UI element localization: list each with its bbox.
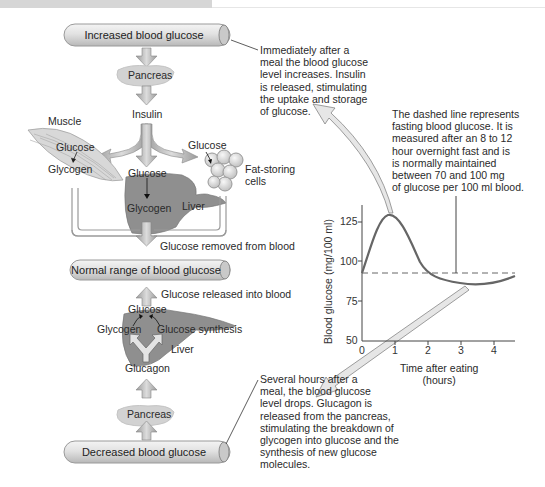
glucagon-label: Glucagon bbox=[125, 362, 170, 374]
y-tick-50: 50 bbox=[346, 334, 358, 346]
x-tick-1: 1 bbox=[392, 344, 398, 356]
fat-cells-image bbox=[205, 150, 243, 191]
liver-image-bottom bbox=[122, 309, 236, 366]
note-after-meal: Immediately after a meal the blood gluco… bbox=[260, 44, 368, 117]
y-axis-label: Blood glucose (mg/100 ml) bbox=[322, 219, 334, 344]
x-tick-4: 4 bbox=[491, 344, 497, 356]
muscle-glycogen-label: Glycogen bbox=[48, 163, 92, 175]
pancreas-top-label: Pancreas bbox=[128, 69, 172, 81]
tube-increased-label: Increased blood glucose bbox=[64, 29, 224, 41]
x-tick-0: 0 bbox=[359, 344, 365, 356]
fat-cells-label: Fat-storing cells bbox=[245, 163, 295, 187]
x-tick-2: 2 bbox=[425, 344, 431, 356]
muscle-glucose-label: Glucose bbox=[56, 141, 95, 153]
liver-bottom-glycogen-label: Glycogen bbox=[97, 323, 141, 335]
liver-bottom-label: Liver bbox=[171, 343, 194, 355]
tube-decreased-label: Decreased blood glucose bbox=[64, 446, 224, 458]
glucose-removed-label: Glucose removed from blood bbox=[160, 240, 295, 252]
x-axis-label: Time after eating (hours) bbox=[400, 362, 478, 386]
tube-normal-label: Normal range of blood glucose bbox=[70, 264, 222, 276]
glucose-chart bbox=[358, 196, 515, 345]
note-several-hours: Several hours after a meal, the blood gl… bbox=[260, 373, 399, 471]
muscle-label: Muscle bbox=[48, 115, 81, 127]
glucose-synthesis-label: Glucose synthesis bbox=[157, 323, 242, 335]
fat-glucose-label: Glucose bbox=[188, 139, 227, 151]
pancreas-bottom-label: Pancreas bbox=[127, 408, 171, 420]
liver-glucose-label: Glucose bbox=[128, 167, 167, 179]
y-tick-125: 125 bbox=[340, 215, 358, 227]
liver-glycogen-label: Glycogen bbox=[127, 202, 171, 214]
liver-top-label: Liver bbox=[182, 200, 205, 212]
y-tick-75: 75 bbox=[346, 295, 358, 307]
liver-bottom-glucose-label: Glucose bbox=[128, 303, 167, 315]
glucose-released-label: Glucose released into blood bbox=[161, 288, 291, 300]
x-tick-3: 3 bbox=[458, 344, 464, 356]
insulin-label: Insulin bbox=[132, 108, 162, 120]
note-dashed-line: The dashed line represents fasting blood… bbox=[392, 108, 524, 193]
y-tick-100: 100 bbox=[340, 255, 358, 267]
